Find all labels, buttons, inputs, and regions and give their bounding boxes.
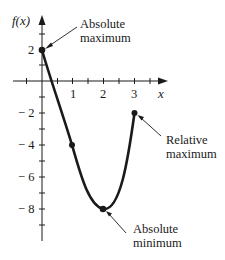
abs-max-label-line1: Absolute bbox=[80, 17, 126, 31]
y-axis-arrow-icon bbox=[39, 15, 46, 25]
point-absolute-maximum bbox=[39, 47, 46, 54]
function-curve bbox=[42, 50, 135, 209]
x-axis-label: x bbox=[157, 86, 164, 101]
abs-max-pointer bbox=[49, 27, 77, 46]
point-absolute-minimum bbox=[100, 206, 107, 213]
x-axis-arrow-icon bbox=[158, 78, 168, 85]
x-tick-label-3: 3 bbox=[131, 87, 137, 101]
y-tick-label-neg4: − 4 bbox=[18, 138, 35, 152]
abs-max-label-line2: maximum bbox=[80, 31, 131, 45]
rel-max-label-line1: Relative bbox=[166, 133, 208, 147]
rel-max-pointer bbox=[141, 118, 161, 136]
y-tick-label-2: 2 bbox=[28, 43, 34, 57]
point-x1 bbox=[69, 142, 75, 148]
x-axis bbox=[13, 78, 168, 85]
point-relative-maximum bbox=[132, 110, 138, 116]
abs-min-label-line2: minimum bbox=[133, 236, 182, 250]
y-tick-label-neg2: − 2 bbox=[18, 106, 34, 120]
abs-max-arrowhead-icon bbox=[45, 43, 53, 50]
abs-min-label-line1: Absolute bbox=[133, 222, 179, 236]
x-tick-label-1: 1 bbox=[70, 87, 76, 101]
abs-min-pointer bbox=[109, 214, 126, 233]
y-axis-label: f(x) bbox=[12, 13, 30, 28]
y-tick-label-neg6: − 6 bbox=[18, 170, 34, 184]
function-graph: f(x) x 1 2 3 2 − 2 − 4 − 6 − 8 Absolute … bbox=[0, 0, 225, 260]
y-tick-label-neg8: − 8 bbox=[18, 202, 34, 216]
rel-max-label-line2: maximum bbox=[166, 147, 217, 161]
x-tick-label-2: 2 bbox=[100, 87, 106, 101]
